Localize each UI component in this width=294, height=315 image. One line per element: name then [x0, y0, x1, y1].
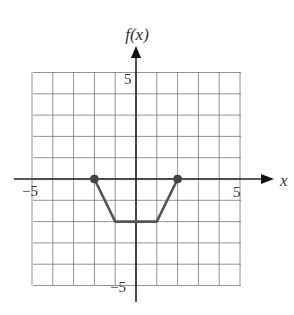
x-axis-arrow-icon [261, 174, 274, 184]
y-min-label: −5 [110, 279, 126, 295]
endpoint-dot [90, 175, 98, 183]
y-max-label: 5 [124, 71, 132, 87]
y-axis [131, 46, 141, 302]
y-axis-label: f(x) [125, 25, 149, 44]
x-axis-label: x [279, 171, 288, 190]
y-axis-arrow-icon [131, 46, 141, 58]
chart: f(x) x −5 5 5 −5 [0, 0, 294, 315]
x-min-label: −5 [22, 183, 38, 199]
endpoint-dot [174, 175, 182, 183]
x-max-label: 5 [233, 184, 241, 200]
